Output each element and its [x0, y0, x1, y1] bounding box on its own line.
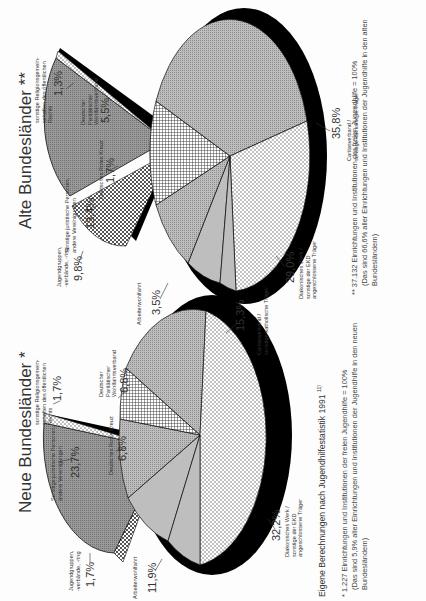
source-note: Eigene Berechnungen nach Jugendhilfestat… — [316, 385, 327, 597]
footnote-alte: ** 37.132 Einrichtungen und Institutione… — [350, 19, 380, 295]
alte-pct-caritas: 35,8% — [330, 108, 342, 139]
neue-pct-drk: 6,8% — [116, 436, 128, 461]
alte-label-jugend: Jugendgruppen,-verbände, -ring — [56, 247, 69, 287]
neue-pct-religion: 1,7% — [51, 376, 63, 401]
alte-label-awo: Arbeiterwohlfahrt — [136, 283, 143, 325]
neue-label-sonstige-jur: Sonstige juristische Personen,andere Ver… — [50, 426, 63, 501]
alte-label-sonstige-jur: Sonstige juristische Personen,andere Ver… — [64, 178, 77, 253]
alte-title: Alte Bundesländer ** — [16, 72, 36, 229]
neue-pct-dpwv: 6,8% — [118, 368, 130, 393]
alte-pct-awo: 3,5% — [150, 290, 162, 315]
alte-label-religion: sonstige Religionsgemein-schaften des öf… — [34, 57, 54, 123]
neue-pct-caritas: 15,3% — [234, 300, 246, 331]
alte-pct-jugend: 9,8% — [72, 256, 84, 281]
alte-pct-drk: 1,7% — [104, 158, 116, 183]
neue-label-jugend: Jugendgruppen,-verbände, -ring — [68, 551, 81, 591]
neue-pct-sonstige-jur: 23,7% — [69, 447, 81, 478]
alte-label-diakonie: Diakonisches Werk /sonstige der EKDanges… — [298, 241, 318, 299]
neue-title: Neue Bundesländer * — [16, 351, 36, 513]
alte-pct-dpwv: 5,5% — [99, 98, 111, 123]
neue-pct-awo: 11,9% — [146, 563, 158, 593]
footnote-neue: * 1.227 Einrichtungen und Institutionen … — [340, 323, 370, 597]
neue-label-dpwv: DeutscherParitätischerWohlfahrtsverband — [98, 350, 118, 397]
neue-label-drk: Deutsches Rotes Kreuz — [108, 416, 115, 475]
neue-pct-jugend: 1,7% — [84, 562, 96, 587]
rotated-page: Neue Bundesländer * Alte Bundesländer **… — [0, 0, 426, 601]
alte-label-dpwv: DeutscherParitätischerWohlfahrtsverband — [80, 78, 100, 125]
alte-pct-religion: 1,3% — [52, 71, 64, 96]
alte-pct-sonstige-jur: 13,4% — [84, 198, 96, 229]
neue-label-caritas: Caritasverband /sonstige katholische Trä… — [256, 287, 269, 355]
neue-pie — [43, 295, 292, 575]
neue-label-awo: Arbeiterwohlfahrt — [132, 557, 139, 599]
neue-pct-diakonie: 32,2% — [270, 510, 282, 541]
neue-label-diakonie: Diakonisches Werk /sonstige der EKDanges… — [284, 499, 304, 557]
alte-pct-diakonie: 29,0% — [284, 252, 296, 283]
